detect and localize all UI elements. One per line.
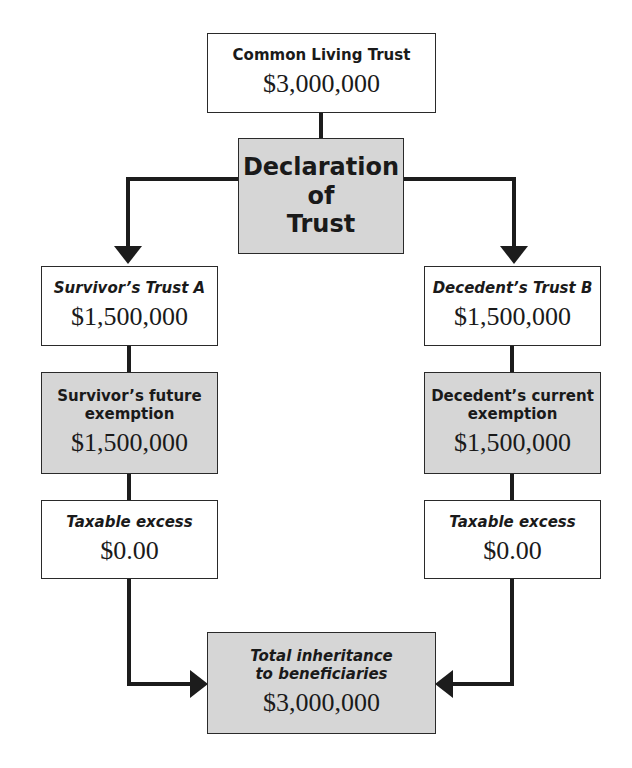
total-inheritance-amount: $3,000,000	[263, 689, 380, 718]
connector-decedent-trust-to-exemption	[510, 345, 514, 373]
declaration-line-2: of	[308, 182, 335, 211]
connector-declaration-right-vertical	[512, 177, 516, 247]
connector-common-to-declaration	[319, 112, 323, 139]
connector-survivor-exemption-to-taxable	[127, 473, 131, 501]
connector-survivor-taxable-right	[127, 682, 191, 686]
connector-declaration-left-vertical	[126, 177, 130, 247]
decedent-trust-b-amount: $1,500,000	[454, 303, 571, 332]
decedent-taxable-label: Taxable excess	[449, 514, 575, 531]
survivor-trust-a-amount: $1,500,000	[71, 303, 188, 332]
connector-declaration-right-horizontal	[403, 177, 516, 181]
total-inheritance-line-1: Total inheritance	[250, 648, 393, 665]
arrow-down-icon	[114, 246, 142, 264]
survivor-trust-a-box: Survivor’s Trust A $1,500,000	[41, 266, 218, 346]
arrow-right-icon	[190, 670, 208, 698]
connector-decedent-taxable-down	[510, 578, 514, 686]
declaration-line-1: Declaration	[243, 153, 399, 182]
connector-survivor-taxable-down	[127, 578, 131, 686]
decedent-exemption-line-1: Decedent’s current	[431, 388, 594, 405]
survivor-taxable-amount: $0.00	[100, 537, 159, 566]
common-living-trust-label: Common Living Trust	[233, 47, 411, 64]
common-living-trust-amount: $3,000,000	[263, 70, 380, 99]
connector-survivor-trust-to-exemption	[127, 345, 131, 373]
decedent-exemption-line-2: exemption	[468, 406, 558, 423]
declaration-of-trust-box: Declaration of Trust	[238, 138, 404, 254]
total-inheritance-box: Total inheritance to beneficiaries $3,00…	[207, 632, 436, 734]
connector-decedent-exemption-to-taxable	[510, 473, 514, 501]
decedent-taxable-amount: $0.00	[483, 537, 542, 566]
survivor-exemption-amount: $1,500,000	[71, 429, 188, 458]
trust-flow-diagram: Common Living Trust $3,000,000 Declarati…	[0, 0, 632, 768]
arrow-left-icon	[435, 670, 453, 698]
decedent-trust-b-box: Decedent’s Trust B $1,500,000	[424, 266, 601, 346]
decedent-current-exemption-box: Decedent’s current exemption $1,500,000	[424, 372, 601, 474]
total-inheritance-line-2: to beneficiaries	[255, 666, 387, 683]
arrow-down-icon	[500, 246, 528, 264]
survivor-taxable-label: Taxable excess	[66, 514, 192, 531]
declaration-line-3: Trust	[287, 210, 355, 239]
decedent-exemption-amount: $1,500,000	[454, 429, 571, 458]
common-living-trust-box: Common Living Trust $3,000,000	[207, 33, 436, 113]
decedent-trust-b-label: Decedent’s Trust B	[433, 280, 593, 297]
survivor-future-exemption-box: Survivor’s future exemption $1,500,000	[41, 372, 218, 474]
connector-declaration-left-horizontal	[126, 177, 239, 181]
connector-decedent-taxable-left	[452, 682, 514, 686]
decedent-taxable-excess-box: Taxable excess $0.00	[424, 500, 601, 579]
survivor-trust-a-label: Survivor’s Trust A	[54, 280, 205, 297]
survivor-taxable-excess-box: Taxable excess $0.00	[41, 500, 218, 579]
survivor-exemption-line-2: exemption	[85, 406, 175, 423]
survivor-exemption-line-1: Survivor’s future	[57, 388, 201, 405]
